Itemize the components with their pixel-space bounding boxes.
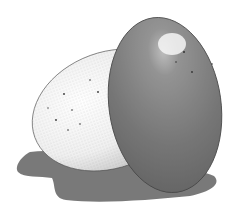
eggs-drawing xyxy=(0,0,240,212)
egg-illustration xyxy=(0,0,240,212)
egg-highlight xyxy=(158,33,186,55)
